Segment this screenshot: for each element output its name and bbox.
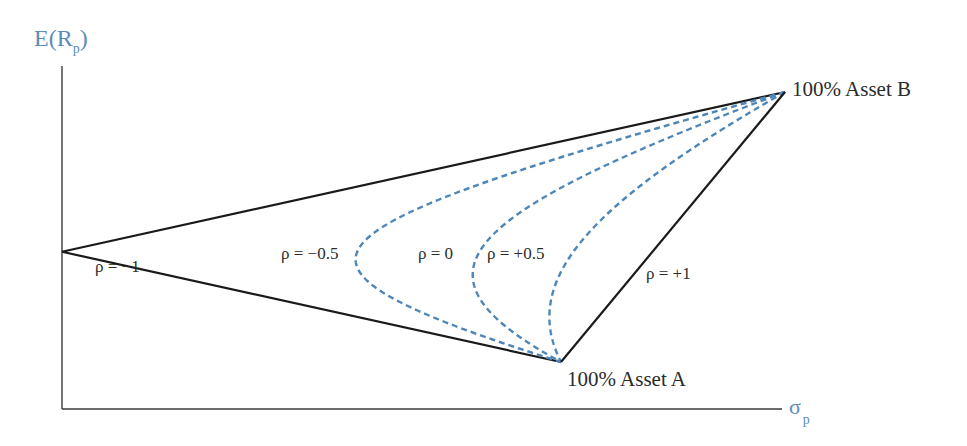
- frontier-curves: [62, 92, 785, 362]
- frontier-line-rho-neg1: [62, 92, 785, 362]
- frontier-line-rho-0_5: [549, 92, 785, 362]
- frontier-line-rho-0: [473, 92, 785, 362]
- asset-b-label: 100% Asset B: [792, 77, 911, 101]
- x-axis-label: σp: [789, 394, 810, 427]
- rho-label: ρ = −1: [95, 257, 140, 276]
- asset-a-label: 100% Asset A: [567, 367, 687, 391]
- correlation-labels: ρ = −1ρ = −0.5ρ = 0ρ = +0.5ρ = +1: [95, 244, 691, 283]
- rho-label: ρ = +0.5: [487, 244, 544, 263]
- rho-label: ρ = −0.5: [281, 244, 338, 263]
- frontier-line-rho-neg0_5: [356, 92, 785, 362]
- y-axis-label: E(Rp): [34, 25, 88, 56]
- rho-label: ρ = 0: [418, 244, 453, 263]
- portfolio-frontier-diagram: E(Rp) σp 100% Asset B 100% Asset A ρ = −…: [0, 0, 967, 446]
- rho-label: ρ = +1: [646, 264, 691, 283]
